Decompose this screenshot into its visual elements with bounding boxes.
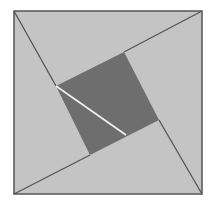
diagram-canvas (0, 0, 211, 205)
pythagorean-dissection-diagram (0, 0, 211, 205)
